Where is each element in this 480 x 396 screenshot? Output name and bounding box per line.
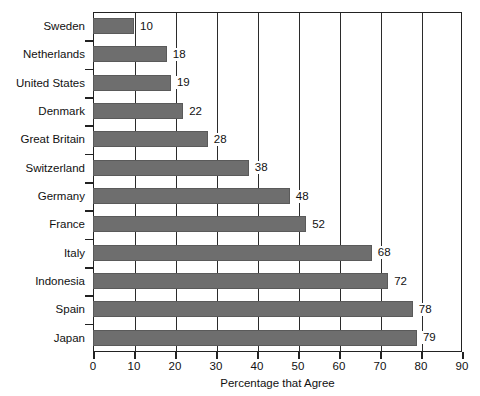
category-label: Indonesia [0,267,85,295]
bars-container: 101819222838485268727879 [93,12,462,352]
category-axis-labels: SwedenNetherlandsUnited StatesDenmarkGre… [0,12,85,352]
value-tick [93,352,95,359]
value-tick-label: 0 [90,360,96,372]
bar-chart: SwedenNetherlandsUnited StatesDenmarkGre… [0,0,480,396]
category-label: Italy [0,239,85,267]
bar-value-label: 52 [311,218,326,231]
value-tick [380,352,382,359]
category-tick [85,324,93,326]
bar [93,103,183,119]
bar [93,330,417,346]
category-tick [85,69,93,71]
bar-row: 79 [93,324,462,352]
bar-row: 10 [93,12,462,40]
category-label: France [0,210,85,238]
category-tick [85,154,93,156]
category-label: Great Britain [0,125,85,153]
category-label: Netherlands [0,40,85,68]
bar [93,245,372,261]
category-label: Spain [0,295,85,323]
value-tick [257,352,259,359]
bar-value-label: 72 [393,275,408,288]
value-axis-ticks [93,352,462,359]
bar [93,46,167,62]
value-tick-label: 20 [169,360,182,372]
value-tick [134,352,136,359]
value-tick [298,352,300,359]
value-tick-label: 50 [292,360,305,372]
value-axis-labels: 0102030405060708090 [0,360,480,376]
bar-value-label: 68 [377,246,392,259]
value-tick-label: 70 [374,360,387,372]
bar-value-label: 22 [188,105,203,118]
bar-row: 78 [93,295,462,323]
category-label: Sweden [0,12,85,40]
category-tick [85,239,93,241]
category-label: Switzerland [0,154,85,182]
category-tick [85,182,93,184]
category-label: Denmark [0,97,85,125]
value-tick [421,352,423,359]
category-label: Germany [0,182,85,210]
x-axis-title: Percentage that Agree [93,377,462,389]
bar-row: 28 [93,125,462,153]
value-tick-label: 10 [128,360,141,372]
value-tick-label: 80 [415,360,428,372]
bar-row: 19 [93,69,462,97]
value-tick-label: 60 [333,360,346,372]
bar-value-label: 18 [172,48,187,61]
bar-row: 22 [93,97,462,125]
bar [93,301,413,317]
value-tick-label: 90 [456,360,469,372]
bar-row: 72 [93,267,462,295]
bar [93,75,171,91]
value-tick [339,352,341,359]
bar-row: 18 [93,40,462,68]
category-tick [85,125,93,127]
bar-value-label: 38 [254,161,269,174]
bar [93,216,306,232]
bar [93,160,249,176]
bar [93,188,290,204]
category-axis-ticks [85,12,93,352]
category-tick [85,295,93,297]
value-tick [175,352,177,359]
bar-value-label: 48 [295,190,310,203]
bar-row: 52 [93,210,462,238]
value-tick [462,352,464,359]
category-tick [85,267,93,269]
value-tick-label: 40 [251,360,264,372]
category-tick [85,97,93,99]
category-tick [85,40,93,42]
bar [93,273,388,289]
bar-row: 68 [93,239,462,267]
value-tick [216,352,218,359]
category-label: Japan [0,324,85,352]
bar-value-label: 28 [213,133,228,146]
category-label: United States [0,69,85,97]
bar [93,131,208,147]
category-tick [85,210,93,212]
bar-row: 38 [93,154,462,182]
bar-value-label: 78 [418,303,433,316]
bar-row: 48 [93,182,462,210]
bar-value-label: 19 [176,76,191,89]
value-tick-label: 30 [210,360,223,372]
bar-value-label: 79 [422,331,437,344]
bar-value-label: 10 [139,20,154,33]
bar [93,18,134,34]
